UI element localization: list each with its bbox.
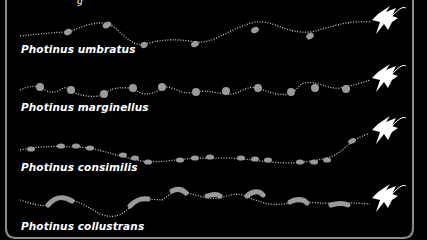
species-label-marginellus: Photinus marginellus <box>21 101 149 113</box>
species-label-consimilis: Photinus consimilis <box>21 161 138 173</box>
trail-marginellus <box>20 80 370 98</box>
species-label-collustrans: Photinus collustrans <box>21 220 144 232</box>
species-label-umbratus: Photinus umbratus <box>21 43 136 55</box>
firefly-flash-diagram: g <box>0 0 427 240</box>
trail-collustrans <box>20 190 370 217</box>
title-fragment: g <box>77 0 83 6</box>
firefly-icon-4 <box>372 184 406 212</box>
firefly-icon-2 <box>372 64 406 92</box>
firefly-icons <box>372 6 406 212</box>
trail-consimilis <box>20 134 368 165</box>
firefly-icon-1 <box>372 6 406 34</box>
firefly-icon-3 <box>372 116 406 144</box>
